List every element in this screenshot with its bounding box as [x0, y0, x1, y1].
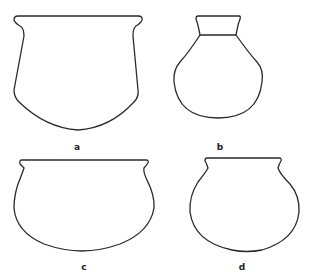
vessel-d-outline: [190, 158, 299, 252]
pottery-figure: a b c d: [0, 0, 309, 280]
vessel-b-label: b: [217, 143, 223, 152]
vessel-a-outline: [14, 16, 142, 130]
vessel-drawings: [0, 0, 309, 280]
vessel-a-label: a: [74, 143, 80, 152]
vessel-c-label: c: [81, 263, 86, 272]
vessel-b-outline: [174, 16, 263, 118]
vessel-c-outline: [14, 160, 154, 251]
vessel-d-label: d: [239, 263, 245, 272]
